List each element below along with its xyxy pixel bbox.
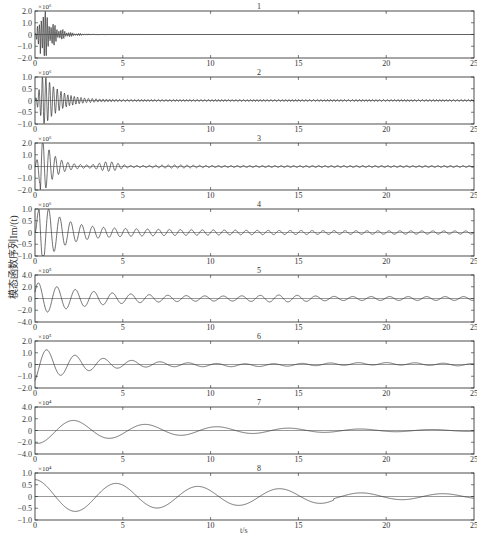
x-tick-label: 25 [470,389,477,398]
x-tick-label: 10 [207,323,215,332]
y-tick-label: 0.5 [22,85,32,94]
x-tick-label: 0 [33,257,37,266]
x-tick-label: 5 [121,389,125,398]
panel-2: 05101520251.00.50−0.5−1.0×10⁶2 [17,68,477,134]
x-tick-label: 0 [33,59,37,68]
y-tick-label: 2.0 [22,7,32,16]
y-tick-label: −2.0 [17,186,32,195]
y-tick-label: 4.0 [22,271,32,280]
x-tick-label: 20 [382,455,390,464]
y-tick-label: −0.5 [17,504,32,513]
y-tick-label: −2.0 [17,306,32,315]
x-tick-label: 0 [33,521,37,530]
y-tick-label: −2.0 [17,384,32,393]
y-tick-label: 2.0 [22,283,32,292]
panel-number: 2 [257,68,261,77]
x-tick-label: 20 [382,191,390,200]
panel-1: 05101520252.01.00−1.0−2.0×10⁶1 [17,2,477,68]
y-tick-label: 0.5 [22,481,32,490]
y-tick-label: 0 [28,163,32,172]
imf-signal-line [35,143,474,189]
panel-number: 4 [257,200,261,209]
panel-7: 05101520254.02.00−2.0−4.0×10⁴7 [17,398,477,464]
y-tick-label: 2.0 [22,415,32,424]
imf-signal-line [35,350,474,381]
x-tick-label: 0 [33,389,37,398]
x-tick-label: 10 [207,191,215,200]
imf-signal-line [35,209,474,255]
x-tick-label: 25 [470,257,477,266]
x-tick-label: 0 [33,323,37,332]
y-tick-label: −4.0 [17,318,32,327]
y-tick-label: 0 [28,295,32,304]
x-tick-label: 15 [294,191,302,200]
x-tick-label: 5 [121,521,125,530]
y-tick-label: −0.5 [17,108,32,117]
y-tick-label: −0.5 [17,240,32,249]
y-tick-label: 1.0 [22,73,32,82]
x-tick-label: 25 [470,323,477,332]
x-tick-label: 20 [382,521,390,530]
imf-signal-line [35,420,474,443]
y-tick-label: 2.0 [22,337,32,346]
scale-factor: ×10⁶ [38,69,52,77]
panel-3: 05101520252.01.00−1.0−2.0×10⁶3 [17,134,477,200]
x-tick-label: 15 [294,125,302,134]
x-tick-label: 25 [470,191,477,200]
y-tick-label: −1.0 [17,372,32,381]
scale-factor: ×10⁵ [38,333,52,341]
x-tick-label: 10 [207,521,215,530]
x-tick-label: 25 [470,455,477,464]
x-tick-label: 5 [121,455,125,464]
x-tick-label: 0 [33,455,37,464]
y-tick-label: 1.0 [22,469,32,478]
x-tick-label: 20 [382,59,390,68]
y-tick-label: 0 [28,493,32,502]
x-tick-label: 5 [121,257,125,266]
y-tick-label: −1.0 [17,252,32,261]
y-tick-label: −4.0 [17,450,32,459]
imf-signal-line [35,11,474,55]
scale-factor: ×10⁶ [38,201,52,209]
x-tick-label: 10 [207,257,215,266]
x-tick-label: 15 [294,389,302,398]
x-tick-label: 20 [382,323,390,332]
panel-number: 8 [257,464,261,473]
y-tick-label: 4.0 [22,403,32,412]
y-tick-label: 1.0 [22,205,32,214]
y-tick-label: 0.5 [22,217,32,226]
panel-number: 5 [257,266,261,275]
x-tick-label: 10 [207,59,215,68]
y-tick-label: −1.0 [17,42,32,51]
x-tick-label: 15 [294,521,302,530]
y-tick-label: 1.0 [22,151,32,160]
x-tick-label: 20 [382,125,390,134]
imf-signal-line [35,480,474,512]
y-tick-label: 0 [28,31,32,40]
x-tick-label: 15 [294,323,302,332]
y-tick-label: −2.0 [17,54,32,63]
scale-factor: ×10⁵ [38,267,52,275]
x-tick-label: 10 [207,389,215,398]
x-tick-label: 5 [121,323,125,332]
x-tick-label: 10 [207,125,215,134]
imf-chart: 05101520252.01.00−1.0−2.0×10⁶10510152025… [0,0,477,537]
scale-factor: ×10⁶ [38,3,52,11]
x-tick-label: 15 [294,257,302,266]
x-tick-label: 25 [470,125,477,134]
panel-number: 3 [257,134,261,143]
panel-6: 05101520252.01.00−1.0−2.0×10⁵6 [17,332,477,398]
scale-factor: ×10⁶ [38,135,52,143]
y-tick-label: 2.0 [22,139,32,148]
x-tick-label: 25 [470,521,477,530]
scale-factor: ×10⁴ [38,399,52,407]
y-tick-label: 0 [28,361,32,370]
y-tick-label: −2.0 [17,438,32,447]
imf-signal-line [35,283,474,312]
panel-4: 05101520251.00.50−0.5−1.0×10⁶4 [17,200,477,266]
panel-5: 05101520254.02.00−2.0−4.0×10⁵5 [17,266,477,332]
panel-number: 1 [257,2,261,11]
panel-8: 05101520251.00.50−0.5−1.0×10⁴8 [17,464,477,530]
x-tick-label: 25 [470,59,477,68]
panel-number: 7 [257,398,261,407]
